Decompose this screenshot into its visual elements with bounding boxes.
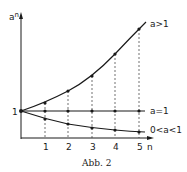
label-constant: a=1 (150, 106, 169, 116)
y-tick-1: 1 (12, 107, 18, 117)
figure-caption: Abb. 2 (81, 158, 111, 168)
y-axis-arrow-icon (19, 12, 23, 19)
curve-growth (21, 22, 146, 111)
label-decay: 0<a<1 (150, 125, 182, 135)
x-tick-5: 5 (137, 142, 143, 152)
label-growth: a>1 (150, 19, 169, 29)
x-axis-arrow-icon (147, 136, 154, 140)
x-tick-4: 4 (113, 142, 119, 152)
data-points (19, 27, 141, 133)
y-axis-label: an (9, 11, 19, 22)
x-tick-1: 1 (43, 142, 49, 152)
exponential-diagram: an 1 1 2 3 4 5 n a>1 a=1 0<a<1 Abb. 2 (0, 0, 187, 172)
x-axis-label: n (147, 142, 153, 152)
curve-decay (21, 111, 145, 132)
x-tick-3: 3 (90, 142, 96, 152)
x-tick-2: 2 (66, 142, 72, 152)
